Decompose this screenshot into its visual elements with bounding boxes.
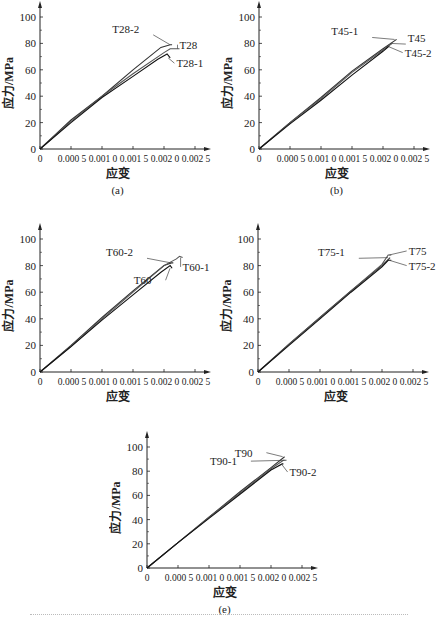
y-tick-label: 20 [132,538,144,550]
y-tick-label: 40 [244,90,256,102]
y-tick-label: 0 [31,143,37,155]
y-axis-arrow-icon [145,431,149,438]
x-tick-label: 0 [256,377,261,387]
y-tick-label: 20 [25,339,37,351]
series-annotation: T60-2 [106,246,133,258]
series-annotation: T45 [408,32,426,44]
series-annotation: T45-2 [405,47,432,59]
x-axis-arrow-icon [311,566,318,570]
series-line-t90-1 [147,460,287,568]
y-tick-label: 60 [132,489,144,501]
chart-panel-c: 02040608010000.000 50.001 00.001 50.002 … [0,200,219,410]
series-line-t28 [40,49,180,149]
y-axis-arrow-icon [257,1,261,8]
y-tick-label: 40 [25,313,37,325]
x-tick-label: 0 [145,573,150,583]
y-axis-label: 应力/MPa [1,280,16,332]
series-annotation: T75 [409,245,427,257]
x-tick-label: 0 [257,154,262,164]
panel-caption: (b) [330,184,343,197]
panel-caption: (d) [329,407,342,410]
series-line-t75-2 [258,260,391,372]
chart-panel-b: 02040608010000.000 50.001 00.001 50.002 … [219,0,438,200]
x-axis-label: 应变 [213,585,237,600]
y-axis-label: 应力/MPa [1,57,16,109]
x-tick-label: 0.001 0 [89,154,118,164]
x-tick-label: 0.002 0 [151,154,180,164]
chart-b: 02040608010000.000 50.001 00.001 50.002 … [219,0,438,200]
x-tick-label: 0.002 0 [370,154,399,164]
y-tick-label: 60 [243,286,255,298]
x-tick-label: 0.000 5 [276,377,305,387]
x-tick-label: 0.001 0 [307,377,336,387]
y-tick-label: 60 [25,64,37,76]
x-tick-label: 0.002 5 [182,154,211,164]
series-line-t60 [40,266,172,372]
y-tick-label: 20 [25,117,37,129]
x-tick-label: 0.001 5 [120,154,149,164]
y-tick-label: 80 [25,37,37,49]
chart-panel-d: 02040608010000.000 50.001 00.001 50.002 … [219,200,438,410]
x-axis-arrow-icon [422,370,429,374]
chart-c: 02040608010000.000 50.001 00.001 50.002 … [0,200,219,410]
x-tick-label: 0.001 5 [339,154,368,164]
x-tick-label: 0.002 0 [369,377,398,387]
x-axis-arrow-icon [423,147,430,151]
x-axis-label: 应变 [106,166,130,181]
y-tick-label: 100 [20,11,37,23]
y-tick-label: 100 [20,233,37,245]
y-tick-label: 20 [243,339,255,351]
x-tick-label: 0.001 5 [120,377,149,387]
y-axis-arrow-icon [38,223,42,230]
series-annotation: T60 [134,274,152,286]
x-tick-label: 0.000 5 [58,377,87,387]
x-tick-label: 0.001 0 [196,573,225,583]
y-tick-label: 100 [127,441,144,453]
x-tick-label: 0.002 0 [151,377,180,387]
series-annotation: T60-1 [183,261,210,273]
x-tick-label: 0 [38,154,43,164]
y-axis-label: 应力/MPa [219,280,234,332]
x-axis-label: 应变 [324,389,348,404]
x-tick-label: 0.001 5 [338,377,367,387]
series-annotation: T75-1 [318,246,345,258]
x-tick-label: 0 [38,377,43,387]
y-tick-label: 60 [25,286,37,298]
y-tick-label: 80 [25,260,37,272]
series-annotation: T28-2 [112,23,139,35]
y-tick-label: 40 [243,313,255,325]
x-axis-arrow-icon [204,370,211,374]
cropped-caption-line [30,614,408,618]
chart-panel-e: 02040608010000.000 50.001 00.001 50.002 … [109,410,328,620]
y-tick-label: 0 [250,143,256,155]
x-tick-label: 0.001 0 [308,154,337,164]
y-axis-label: 应力/MPa [109,482,123,534]
y-tick-label: 80 [132,465,144,477]
x-tick-label: 0.002 0 [258,573,287,583]
y-tick-label: 60 [244,64,256,76]
y-tick-label: 100 [239,11,256,23]
series-annotation: T90 [235,447,253,459]
y-tick-label: 100 [238,233,255,245]
y-axis-label: 应力/MPa [220,57,235,109]
y-tick-label: 40 [25,90,37,102]
y-tick-label: 20 [244,117,256,129]
series-line-t28-1 [40,54,170,149]
chart-panel-a: 02040608010000.000 50.001 00.001 50.002 … [0,0,219,200]
x-tick-label: 0.000 5 [58,154,87,164]
series-annotation: T75-2 [409,260,436,272]
x-axis-arrow-icon [204,147,211,151]
series-annotation: T90-1 [210,455,237,467]
chart-a: 02040608010000.000 50.001 00.001 50.002 … [0,0,219,200]
y-axis-arrow-icon [38,1,42,8]
series-line-t45-2 [259,46,389,149]
x-tick-label: 0.002 5 [289,573,318,583]
y-tick-label: 80 [244,37,256,49]
series-annotation: T28 [180,39,198,51]
x-tick-label: 0.002 5 [401,154,430,164]
y-tick-label: 0 [138,562,144,574]
y-tick-label: 40 [132,514,144,526]
x-tick-label: 0.000 5 [165,573,194,583]
x-tick-label: 0.000 5 [277,154,306,164]
x-axis-label: 应变 [106,389,130,404]
